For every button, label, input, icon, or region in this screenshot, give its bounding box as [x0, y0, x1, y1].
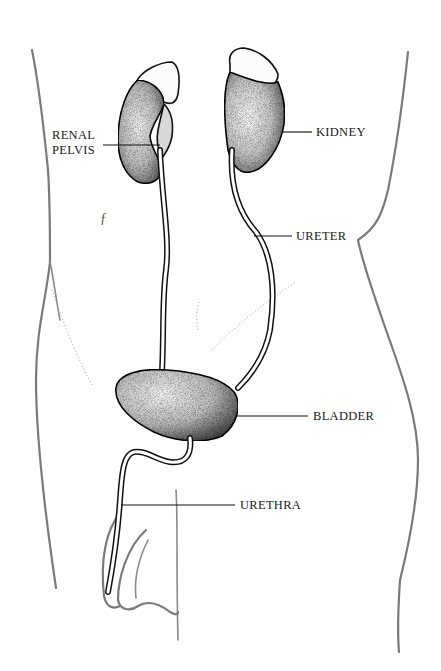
pelvic-contours — [52, 282, 296, 385]
ureters — [160, 150, 273, 388]
label-kidney: KIDNEY — [316, 125, 366, 139]
label-renal-pelvis-line2: PELVIS — [52, 143, 95, 157]
label-urethra: URETHRA — [240, 498, 301, 512]
left-kidney — [118, 62, 179, 183]
urethra — [108, 438, 190, 592]
bladder — [116, 370, 238, 441]
stray-mark: ƒ — [100, 212, 107, 226]
label-ureter: URETER — [296, 229, 346, 243]
anatomy-illustration — [0, 0, 441, 671]
urinary-system-diagram: RENAL PELVIS KIDNEY URETER BLADDER URETH… — [0, 0, 441, 671]
label-renal-pelvis-line1: RENAL — [52, 128, 95, 142]
label-bladder: BLADDER — [313, 409, 374, 423]
